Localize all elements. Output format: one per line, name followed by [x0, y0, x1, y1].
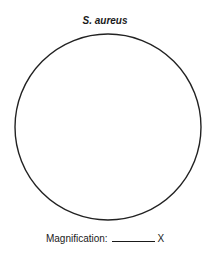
- magnification-line: Magnification: X: [0, 232, 210, 244]
- magnification-blank[interactable]: [112, 232, 155, 242]
- magnification-unit: X: [157, 233, 164, 244]
- microscope-field-circle: [0, 0, 210, 253]
- magnification-label: Magnification:: [46, 233, 108, 244]
